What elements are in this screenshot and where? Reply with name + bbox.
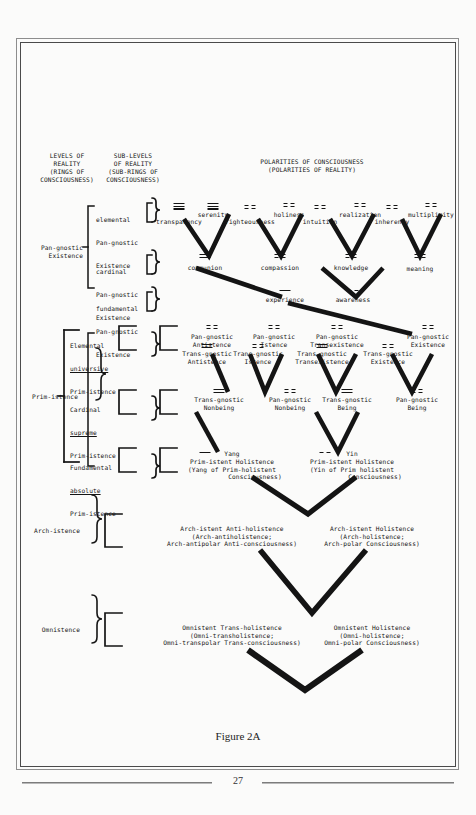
polarity-inherency: inherency xyxy=(375,218,409,226)
mark-serenity xyxy=(208,203,219,210)
polarity-serenity: serenity xyxy=(198,211,229,219)
sublevel-fundamental-absolute-prim-istence: Fundamental absolute Prim-istence xyxy=(70,449,116,533)
yin-line xyxy=(423,325,434,326)
node-omnistent-holistence: Omnistent Holistence (Omni-holistence; O… xyxy=(324,624,420,647)
yin-line xyxy=(426,203,437,204)
node-trans-gnostic-existence: Trans-gnostic Existence xyxy=(363,350,413,365)
mark-multiplicity xyxy=(426,203,437,207)
yin-line xyxy=(269,325,280,326)
folio-rule-right xyxy=(262,782,454,784)
yin-line xyxy=(412,389,423,390)
mark-pan-gnostic-being xyxy=(412,389,423,393)
yang-line xyxy=(208,208,219,209)
header-levels-of-reality: LEVELS OF REALITY (RINGS OF CONSCIOUSNES… xyxy=(40,152,94,184)
yin-line xyxy=(207,325,218,326)
mark-pan-gnostic-existence-node xyxy=(423,325,434,329)
header-sub-levels-of-reality: SUB-LEVELS OF REALITY (SUB-RINGS OF CONS… xyxy=(106,152,160,184)
mark-experience xyxy=(280,290,291,291)
yin-line xyxy=(285,389,296,390)
figure-caption: Figure 2A xyxy=(216,730,261,742)
polarity-communion: communion xyxy=(188,264,222,272)
node-trans-gnostic-antistence: Trans-gnostic Antistence xyxy=(182,350,232,365)
mark-transparency xyxy=(174,203,185,210)
yang-line xyxy=(342,392,353,393)
mark-yang xyxy=(200,452,211,453)
yin-line xyxy=(332,328,343,329)
mark-pan-gnostic-antistence xyxy=(207,325,218,329)
sublevel-line-2: universive xyxy=(70,365,116,373)
yang-line xyxy=(342,389,353,390)
mark-pan-gnostic-istence xyxy=(269,325,280,329)
mark-trans-gnostic-being xyxy=(342,389,353,393)
node-arch-istent-holistence: Arch-istent Holistence (Arch-holistence;… xyxy=(324,525,420,548)
yin-line xyxy=(412,392,423,393)
node-pan-gnostic-transexistence: Pan-gnostic Transexistence xyxy=(310,333,364,348)
mark-yin xyxy=(320,452,331,453)
node-yin-prim-istent-holistence: Prim-istent Holistence (Yin of Prim holi… xyxy=(302,458,401,481)
yin-line xyxy=(426,206,437,207)
level-label-omnistence: Omnistence xyxy=(42,626,80,634)
node-yang-title: Yang xyxy=(224,450,239,458)
yin-line xyxy=(346,257,357,258)
polarity-experience: experience xyxy=(266,296,304,304)
yin-line xyxy=(245,208,256,209)
yin-line xyxy=(423,328,434,329)
node-trans-gnostic-transexistence: Trans-gnostic Transexistence xyxy=(295,350,349,365)
polarity-intuition: intuition xyxy=(303,218,337,226)
yang-line xyxy=(200,452,211,453)
page-number: 27 xyxy=(233,775,243,786)
polarity-transparency: transparency xyxy=(156,218,202,226)
sublevel-line-2: Pan-gnostic xyxy=(96,239,138,247)
polarity-righteousness: righteousness xyxy=(225,218,275,226)
mark-holiness xyxy=(284,203,295,207)
sublevel-line-2: supreme xyxy=(70,429,116,437)
yin-line xyxy=(284,206,295,207)
yang-line xyxy=(200,257,211,258)
yin-line xyxy=(415,257,426,258)
mark-meaning xyxy=(415,254,426,258)
node-yang-prim-istent-holistence: Prim-istent Holistence (Yang of Prim-hol… xyxy=(182,458,281,481)
sublevel-line-1: fundamental xyxy=(96,305,138,313)
sublevel-line-1: elemental xyxy=(96,216,138,224)
sublevel-line-1: Fundamental xyxy=(70,464,116,472)
node-pan-gnostic-existence: Pan-gnostic Existence xyxy=(407,333,449,348)
page-paper: LEVELS OF REALITY (RINGS OF CONSCIOUSNES… xyxy=(0,0,476,815)
mark-righteousness xyxy=(245,205,256,209)
yang-line xyxy=(208,206,219,207)
node-pan-gnostic-being: Pan-gnostic Being xyxy=(396,396,438,411)
node-yin-title: Yin xyxy=(346,450,357,458)
yin-line xyxy=(348,290,359,291)
yang-line xyxy=(200,254,211,255)
mark-realization xyxy=(355,203,366,207)
yang-line xyxy=(208,203,219,204)
node-trans-gnostic-istence: Trans-gnostic Istence xyxy=(233,350,283,365)
yang-line xyxy=(174,208,185,209)
yin-line xyxy=(332,325,343,326)
polarity-holiness: holiness xyxy=(274,211,305,219)
mark-pan-gnostic-transexistence xyxy=(332,325,343,329)
header-polarities-of-consciousness: POLARITIES OF CONSCIOUSNESS (POLARITIES … xyxy=(260,158,363,174)
yang-line xyxy=(174,206,185,207)
polarity-awareness: awareness xyxy=(336,296,370,304)
yin-line xyxy=(387,205,398,206)
yin-line xyxy=(387,208,398,209)
yin-line xyxy=(346,254,357,255)
node-trans-gnostic-nonbeing: Trans-gnostic Nonbeing xyxy=(194,396,244,411)
sublevel-line-3: Prim-istence xyxy=(70,510,116,518)
yin-line xyxy=(207,328,218,329)
folio-rule-left xyxy=(22,782,212,784)
yang-line xyxy=(214,392,225,393)
yin-line xyxy=(284,203,295,204)
polarity-compassion: compassion xyxy=(261,264,299,272)
node-pan-gnostic-istence: Pan-gnostic Istence xyxy=(253,333,295,348)
sublevel-line-1: cardinal xyxy=(96,268,138,276)
mark-intuition xyxy=(315,205,326,209)
yin-line xyxy=(355,206,366,207)
node-omnistent-trans-holistence: Omnistent Trans-holistence (Omni-transho… xyxy=(163,624,301,647)
yin-line xyxy=(285,392,296,393)
yin-line xyxy=(275,254,286,255)
mark-trans-gnostic-existence xyxy=(383,344,394,348)
mark-inherency xyxy=(387,205,398,209)
polarity-knowledge: knowledge xyxy=(334,264,368,272)
node-pan-gnostic-nonbeing: Pan-gnostic Nonbeing xyxy=(269,396,311,411)
